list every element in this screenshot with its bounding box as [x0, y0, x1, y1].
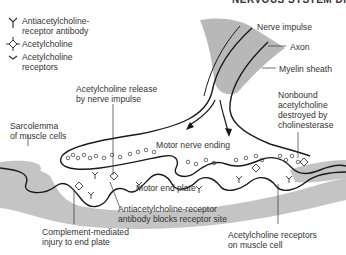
legend-acetylcholine-label: Acetylcholine — [22, 39, 73, 49]
label-ach-release-line1: Acetylcholine release — [76, 84, 157, 94]
label-complement-line2: injury to end plate — [42, 237, 129, 247]
acetylcholine-diamond-icon — [6, 37, 20, 51]
label-nonbound-line3: destroyed by — [278, 110, 333, 120]
label-myelin-sheath: Myelin sheath — [279, 64, 332, 74]
label-axon: Axon — [290, 42, 310, 52]
legend-antibody-label: Antiacetylcholine- receptor antibody — [22, 16, 89, 36]
legend-receptors-label: Acetylcholine receptors — [22, 52, 73, 72]
label-antibody-blocks-line2: antibody blocks receptor site — [118, 214, 227, 224]
vesicles — [66, 148, 300, 166]
label-complement-line1: Complement-mediated — [42, 227, 129, 237]
label-ach-release: Acetylcholine release by nerve impulse — [76, 84, 157, 104]
label-sarcolemma-line1: Sarcolemma — [10, 121, 66, 131]
label-ach-receptors-line1: Acetylcholine receptors — [228, 230, 317, 240]
legend-antibody-line2: receptor antibody — [22, 26, 89, 36]
legend-receptors-line1: Acetylcholine — [22, 52, 73, 62]
label-nonbound-line1: Nonbound — [278, 90, 333, 100]
label-complement: Complement-mediated injury to end plate — [42, 227, 129, 247]
label-nonbound-line4: cholinesterase — [278, 120, 333, 130]
label-nerve-impulse: Nerve impulse — [257, 22, 312, 32]
label-nonbound: Nonbound acetylcholine destroyed by chol… — [278, 90, 333, 130]
label-antibody-blocks: Antiacetylcholine-receptor antibody bloc… — [118, 204, 227, 224]
label-motor-nerve-ending: Motor nerve ending — [156, 140, 230, 150]
label-motor-end-plate: Motor end plate — [136, 183, 196, 193]
label-sarcolemma-line2: of muscle cells — [10, 131, 66, 141]
label-ach-release-line2: by nerve impulse — [76, 94, 157, 104]
label-ach-receptors-line2: on muscle cell — [228, 240, 317, 250]
label-nonbound-line2: acetylcholine — [278, 100, 333, 110]
label-antibody-blocks-line1: Antiacetylcholine-receptor — [118, 204, 227, 214]
legend-receptors-line2: receptors — [22, 62, 73, 72]
label-sarcolemma: Sarcolemma of muscle cells — [10, 121, 66, 141]
receptor-chevron-icon — [9, 56, 17, 59]
antibody-y-icon — [9, 18, 17, 28]
legend-antibody-line1: Antiacetylcholine- — [22, 16, 89, 26]
label-ach-receptors-muscle: Acetylcholine receptors on muscle cell — [228, 230, 317, 250]
